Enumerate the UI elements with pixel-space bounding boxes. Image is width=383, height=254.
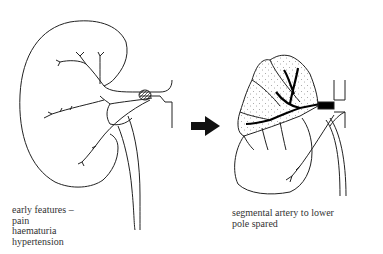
right-arrow-icon	[191, 116, 220, 136]
caption-line-hypertension: hypertension	[12, 237, 74, 248]
right-kidney	[235, 55, 346, 196]
left-kidney	[20, 21, 172, 230]
occlusion-thrombus	[139, 90, 151, 100]
early-features-caption: early features – pain haematuria hyperte…	[12, 205, 74, 247]
lower-pole-caption: segmental artery to lower pole spared	[232, 208, 334, 229]
caption-line-1: segmental artery to lower	[232, 208, 334, 219]
caption-line-haematuria: haematuria	[12, 226, 74, 237]
caption-line-title: early features –	[12, 205, 74, 216]
caption-line-2: pole spared	[232, 219, 334, 230]
